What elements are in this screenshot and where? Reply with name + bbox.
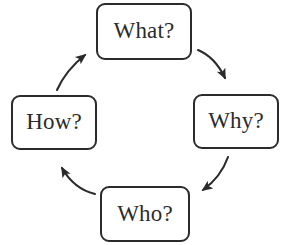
node-who-label: Who? [117, 202, 173, 227]
node-how-label: How? [26, 110, 82, 135]
node-what-label: What? [113, 19, 174, 44]
node-who[interactable]: Who? [100, 186, 190, 242]
node-how[interactable]: How? [11, 95, 97, 150]
arrow-why-to-who [203, 157, 228, 190]
arrow-what-to-why [198, 50, 225, 78]
arrow-how-to-what [57, 55, 85, 90]
cycle-diagram: What? Why? Who? How? [0, 0, 288, 245]
node-why[interactable]: Why? [193, 94, 279, 149]
node-why-label: Why? [208, 109, 264, 134]
node-what[interactable]: What? [96, 3, 192, 60]
arrow-who-to-how [62, 168, 95, 194]
